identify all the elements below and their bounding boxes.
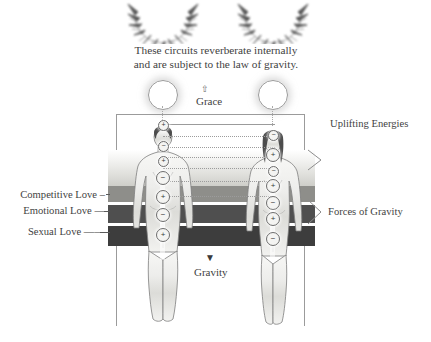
forces-of-gravity-label: Forces of Gravity xyxy=(328,206,403,217)
connector-level-2 xyxy=(163,147,275,148)
male-chakra-4: − xyxy=(156,171,170,185)
connector-level-6 xyxy=(163,196,275,197)
male-chakra-5: + xyxy=(156,190,170,204)
male-chakra-3: + xyxy=(158,156,169,167)
female-chakra-3: − xyxy=(268,166,279,177)
male-chakra-1: + xyxy=(158,120,169,131)
female-chakra-7: − xyxy=(266,232,280,246)
sexual-love-label: Sexual Love —— xyxy=(10,226,105,237)
male-chakra-6: − xyxy=(156,208,170,222)
uplifting-energies-label: Uplifting Energies xyxy=(330,118,408,129)
diagram-canvas: These circuits reverberate internally an… xyxy=(0,0,431,342)
emotional-love-label: Emotional Love — xyxy=(10,205,105,216)
female-chakra-2: + xyxy=(266,148,280,162)
forces-of-gravity-arrow-icon xyxy=(306,198,324,230)
competitive-love-dash: – xyxy=(100,189,105,200)
right-crown-burst-icon xyxy=(234,2,312,44)
connector-level-5 xyxy=(163,181,275,182)
emotional-love-text: Emotional Love xyxy=(23,205,92,216)
sexual-love-leader xyxy=(100,232,110,233)
female-chakra-1: − xyxy=(268,130,279,141)
gravity-arrow-icon: ▼ xyxy=(205,252,215,263)
female-chakra-5: − xyxy=(266,196,280,210)
grace-label: Grace xyxy=(196,95,222,107)
left-crown-burst-icon xyxy=(124,2,202,44)
connector-level-3 xyxy=(163,157,275,158)
connector-crown xyxy=(163,124,275,125)
connector-level-4 xyxy=(163,168,275,169)
competitive-love-text: Competitive Love xyxy=(20,189,97,200)
left-grace-circle xyxy=(148,80,178,110)
emotional-love-leader xyxy=(104,211,110,212)
gravity-label: Gravity xyxy=(194,266,228,278)
right-grace-circle xyxy=(258,80,288,110)
caption-line-2: and are subject to the law of gravity. xyxy=(96,58,336,72)
male-chakra-7: + xyxy=(156,228,170,242)
male-chakra-2: − xyxy=(158,141,169,152)
competitive-love-leader xyxy=(106,194,110,195)
female-chakra-6: + xyxy=(266,212,280,226)
connector-level-1 xyxy=(163,136,275,137)
female-chakra-4: + xyxy=(266,179,280,193)
caption-line-1: These circuits reverberate internally xyxy=(96,44,336,58)
uplifting-energies-arrow-icon xyxy=(306,148,324,176)
sexual-love-text: Sexual Love xyxy=(28,226,81,237)
grace-arrow-icon: ⇧ xyxy=(201,84,209,94)
caption-text: These circuits reverberate internally an… xyxy=(96,44,336,71)
competitive-love-label: Competitive Love – xyxy=(10,189,105,200)
